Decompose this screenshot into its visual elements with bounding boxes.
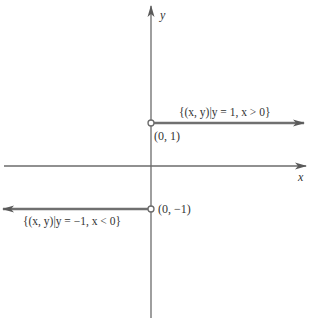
ray-1-set-label: {(x, y)|y = 1, x > 0} xyxy=(179,106,270,118)
ray-2-set-label: {(x, y)|y = −1, x < 0} xyxy=(23,215,121,227)
ray-2-point-label: (0, −1) xyxy=(158,203,191,215)
open-point-0-neg1 xyxy=(148,206,154,212)
y-axis-label: y xyxy=(160,9,165,21)
coordinate-plane xyxy=(0,0,311,324)
ray-1-point-label: (0, 1) xyxy=(154,130,180,142)
x-axis-label: x xyxy=(298,171,303,183)
open-point-0-1 xyxy=(148,120,154,126)
